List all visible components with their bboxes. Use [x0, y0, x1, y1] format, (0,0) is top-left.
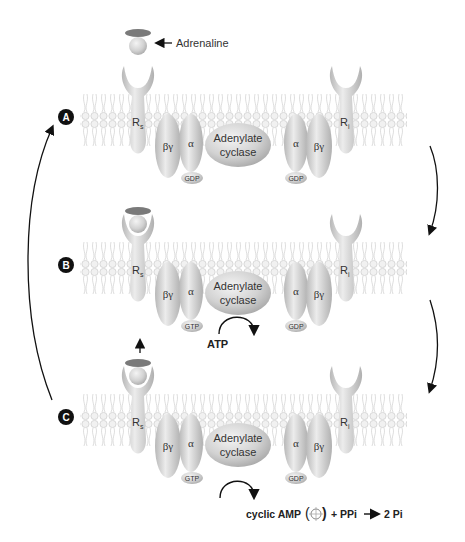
beta-gamma-label-right: βγ	[314, 288, 325, 300]
beta-gamma-label-left: βγ	[163, 140, 174, 152]
products-equation: cyclic AMP(	[246, 505, 310, 521]
alpha-label-left: α	[188, 137, 194, 149]
beta-gamma-label-right: βγ	[314, 440, 325, 452]
alpha-label-right: α	[293, 437, 299, 449]
alpha-label-left: α	[188, 437, 194, 449]
alpha-label-left: α	[188, 285, 194, 297]
enzyme-label-line2: cyclase	[220, 294, 257, 306]
cycle-arrow-c-to-a	[28, 128, 52, 400]
bound-adrenaline	[129, 215, 147, 233]
cycle-arrow-a-to-b	[430, 146, 438, 232]
step-label: C	[62, 412, 69, 423]
camp-reaction-arrow	[220, 481, 254, 498]
panel-c: C Rs Ri βγ α GTP Adenylate cyclase α βγ …	[58, 359, 407, 521]
enzyme-label-line1: Adenylate	[214, 280, 263, 292]
camp-molecule-icon	[309, 507, 323, 521]
cycle-arrow-b-to-c	[430, 300, 438, 390]
adenylate-cyclase	[205, 423, 271, 467]
nucleotide-label-right: GDP	[288, 323, 304, 330]
beta-gamma-label-right: βγ	[314, 140, 325, 152]
nucleotide-label-left: GDP	[184, 175, 200, 182]
enzyme-label-line2: cyclase	[220, 146, 257, 158]
adenylate-cyclase	[205, 123, 271, 167]
panel-a: A Rs Ri βγ α GDP Adenylate cyclase α βγ …	[58, 66, 407, 184]
ppi-label: + PPi	[331, 508, 357, 520]
beta-gamma-label-left: βγ	[163, 288, 174, 300]
enzyme-label-line2: cyclase	[220, 446, 257, 458]
paren-close: )	[322, 505, 327, 521]
step-label: B	[62, 260, 69, 271]
nucleotide-label-left: GTP	[185, 323, 200, 330]
nucleotide-label-right: GDP	[288, 475, 304, 482]
nucleotide-label-right: GDP	[288, 175, 304, 182]
adrenaline-label: Adrenaline	[176, 37, 229, 49]
bound-adrenaline	[129, 367, 147, 385]
panel-b: B Rs Ri βγ α GTP Adenylate cyclase α βγ …	[58, 207, 407, 353]
nucleotide-label-left: GTP	[185, 475, 200, 482]
gpcr-adenylate-cyclase-diagram: Adrenaline A Rs Ri βγ α GDP Adenylate cy…	[0, 0, 465, 542]
beta-gamma-label-left: βγ	[163, 440, 174, 452]
enzyme-label-line1: Adenylate	[214, 132, 263, 144]
step-label: A	[62, 112, 69, 123]
adrenaline-ligand	[125, 29, 151, 55]
adenylate-cyclase	[205, 271, 271, 315]
atp-label: ATP	[207, 338, 228, 350]
alpha-label-right: α	[293, 137, 299, 149]
alpha-label-right: α	[293, 285, 299, 297]
pi-result-label: 2 Pi	[384, 508, 403, 520]
enzyme-label-line1: Adenylate	[214, 432, 263, 444]
atp-reaction-arrow	[219, 317, 254, 334]
